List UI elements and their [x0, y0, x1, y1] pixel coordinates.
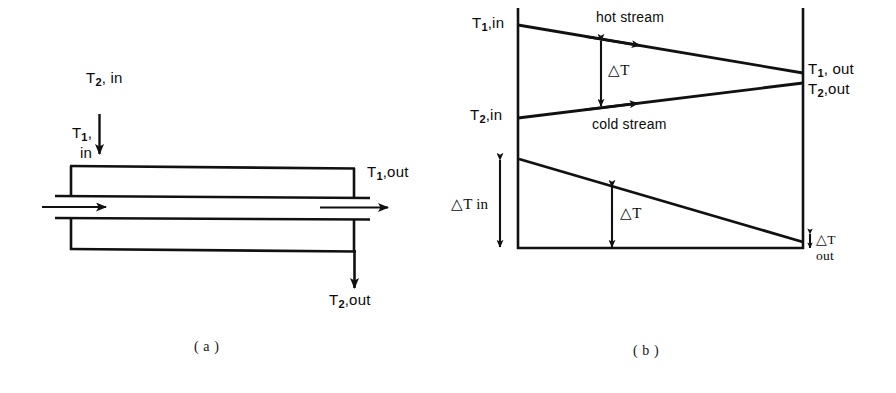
panel-a-exchanger	[42, 114, 388, 288]
label-t2-in-panel-a: T2, in	[86, 70, 123, 89]
cold-stream-line	[518, 83, 803, 118]
cold-stream-direction-arrow	[585, 103, 638, 110]
label-t1-in-panel-a: T1, in	[44, 124, 92, 162]
label-cold-stream: cold stream	[592, 117, 667, 133]
label-t2-in-panel-b: T2,in	[470, 107, 502, 126]
label-t1-out-panel-a: T1,out	[367, 164, 409, 183]
label-hot-stream: hot stream	[596, 10, 664, 26]
hot-stream-direction-arrow	[585, 37, 640, 46]
label-t2-out-panel-b: T2,out	[808, 80, 854, 100]
heat-exchanger-figure: T2, in T1, in T1,out T2,out ( a ) T1,in …	[0, 0, 896, 393]
figure-linework	[0, 0, 896, 393]
shell-bottom-wall	[70, 249, 356, 252]
hot-stream-line	[518, 25, 803, 73]
caption-panel-a: ( a )	[194, 339, 220, 355]
delta-t-profile-line	[519, 159, 803, 242]
label-delta-t-upper: △T	[608, 62, 630, 79]
label-outlet-temperatures-panel-b: T1, out T2,out	[808, 60, 854, 100]
tube-upper-wall	[55, 196, 370, 198]
label-t1-out-panel-b: T1, out	[808, 60, 854, 80]
label-t2-out-panel-a: T2,out	[329, 292, 371, 311]
tube-lower-wall	[55, 218, 370, 220]
label-t1-in-second-line: in	[44, 144, 92, 162]
label-t1-in-panel-b: T1,in	[472, 15, 504, 34]
caption-panel-b: ( b )	[633, 343, 659, 359]
label-delta-t-in: △T in	[451, 196, 488, 213]
label-delta-t-out: △T out	[816, 232, 836, 264]
label-delta-t-lower: △T	[620, 205, 642, 222]
shell-top-wall	[70, 166, 355, 169]
